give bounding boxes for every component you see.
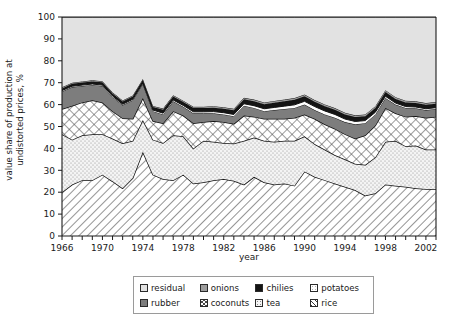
stacked-area-chart: 0102030405060708090100 19661970197419781… xyxy=(0,0,449,322)
y-tick-label: 40 xyxy=(44,144,56,154)
legend-label: onions xyxy=(211,283,239,293)
y-tick-label: 100 xyxy=(38,12,55,22)
legend-label: chilies xyxy=(266,283,293,293)
y-axis-ticks: 0102030405060708090100 xyxy=(38,12,62,241)
legend-swatch-chilies-icon xyxy=(255,284,263,292)
legend-label: residual xyxy=(151,283,185,293)
legend-swatch-rubber-icon xyxy=(140,299,148,307)
area-series-group xyxy=(62,17,436,236)
legend-row: rubbercoconutstearice xyxy=(140,295,368,310)
legend-label: coconuts xyxy=(211,298,250,308)
y-tick-label: 50 xyxy=(44,122,56,132)
legend-item-rice[interactable]: rice xyxy=(310,295,368,310)
legend-swatch-rice-icon xyxy=(310,299,318,307)
legend-item-potatoes[interactable]: potatoes xyxy=(310,280,368,295)
legend-item-chilies[interactable]: chilies xyxy=(255,280,310,295)
x-axis-ticks: 1966197019741978198219861990199419982002 xyxy=(51,236,438,253)
y-tick-label: 20 xyxy=(44,187,56,197)
y-axis-label: value share of production at undistorted… xyxy=(2,0,28,240)
legend-label: rice xyxy=(321,298,337,308)
y-axis-label-line2: undistorted prices, % xyxy=(15,59,26,180)
y-tick-label: 80 xyxy=(44,56,56,66)
legend-row: residualonionschiliespotatoes xyxy=(140,280,368,295)
legend-item-onions[interactable]: onions xyxy=(200,280,256,295)
chart-legend: residualonionschiliespotatoes rubbercoco… xyxy=(133,276,374,314)
y-tick-label: 30 xyxy=(44,166,56,176)
legend-swatch-residual-icon xyxy=(140,284,148,292)
x-axis-label: year xyxy=(62,252,436,262)
legend-swatch-onions-icon xyxy=(200,284,208,292)
legend-item-rubber[interactable]: rubber xyxy=(140,295,200,310)
y-tick-label: 70 xyxy=(44,78,56,88)
legend-swatch-potatoes-icon xyxy=(310,284,318,292)
legend-item-tea[interactable]: tea xyxy=(255,295,310,310)
y-axis-label-line1: value share of production at xyxy=(4,59,15,180)
chart-figure: 0102030405060708090100 19661970197419781… xyxy=(0,0,449,322)
legend-label: rubber xyxy=(151,298,180,308)
y-tick-label: 0 xyxy=(49,231,55,241)
legend-label: potatoes xyxy=(321,283,359,293)
legend-swatch-coconuts-icon xyxy=(200,299,208,307)
legend-label: tea xyxy=(266,298,280,308)
legend-item-residual[interactable]: residual xyxy=(140,280,200,295)
y-tick-label: 90 xyxy=(44,34,56,44)
legend-item-coconuts[interactable]: coconuts xyxy=(200,295,256,310)
legend-swatch-tea-icon xyxy=(255,299,263,307)
y-tick-label: 60 xyxy=(44,100,56,110)
y-tick-label: 10 xyxy=(44,209,56,219)
